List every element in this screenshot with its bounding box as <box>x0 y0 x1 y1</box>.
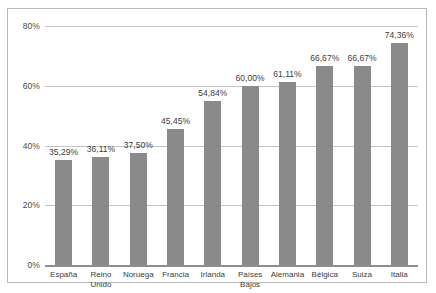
y-tick-label-40: 40% <box>23 141 40 151</box>
bar-value-label: 66,67% <box>310 53 339 63</box>
bar-slot: 66,67% Suiza <box>343 26 380 265</box>
bar[interactable]: 54,84% <box>204 101 221 265</box>
bar-series: 35,29% España 36,11% Reino Unido 37,50% … <box>45 26 418 265</box>
bar[interactable]: 60,00% <box>242 86 259 265</box>
y-tick-label-0: 0% <box>28 260 41 270</box>
gridline-0-baseline: 0% <box>45 265 418 267</box>
y-tick-label-20: 20% <box>23 200 40 210</box>
bar-slot: 35,29% España <box>45 26 82 265</box>
bar-value-label: 60,00% <box>236 73 265 83</box>
bar-slot: 66,67% Bélgica <box>306 26 343 265</box>
bar-value-label: 54,84% <box>198 88 227 98</box>
bar[interactable]: 45,45% <box>167 129 184 265</box>
chart-frame: 80% 60% 40% 20% 0% 35,29% España 36,11% <box>7 8 427 283</box>
bar-value-label: 37,50% <box>124 140 153 150</box>
bar-slot: 45,45% Francia <box>157 26 194 265</box>
bar-value-label: 35,29% <box>49 147 78 157</box>
bar-slot: 60,00% Países Bajos <box>231 26 268 265</box>
y-tick-label-60: 60% <box>23 81 40 91</box>
bar[interactable]: 66,67% <box>354 66 371 265</box>
bar-slot: 37,50% Noruega <box>120 26 157 265</box>
bar-value-label: 61,11% <box>273 69 302 79</box>
bar-value-label: 74,36% <box>385 30 414 40</box>
bar[interactable]: 35,29% <box>55 160 72 265</box>
bar[interactable]: 74,36% <box>391 43 408 265</box>
bar[interactable]: 61,11% <box>279 82 296 265</box>
bar-value-label: 66,67% <box>347 53 376 63</box>
bar-slot: 54,84% Irlanda <box>194 26 231 265</box>
bar[interactable]: 36,11% <box>92 157 109 265</box>
plot-area: 80% 60% 40% 20% 0% 35,29% España 36,11% <box>45 26 418 265</box>
y-tick-label-80: 80% <box>23 21 40 31</box>
bar[interactable]: 66,67% <box>316 66 333 265</box>
bar-value-label: 45,45% <box>161 116 190 126</box>
bar[interactable]: 37,50% <box>130 153 147 265</box>
bar-slot: 61,11% Alemania <box>269 26 306 265</box>
bar-slot: 74,36% Italia <box>381 26 418 265</box>
bar-value-label: 36,11% <box>87 144 116 154</box>
category-label: Italia <box>376 270 422 280</box>
bar-slot: 36,11% Reino Unido <box>82 26 119 265</box>
